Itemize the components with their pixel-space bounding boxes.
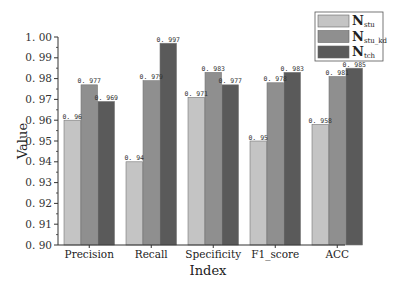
legend-swatch — [318, 15, 349, 27]
x-tick-label: ACC — [324, 248, 349, 260]
bar-n-stu-kd-acc — [329, 77, 346, 245]
y-axis-title: Value — [15, 123, 30, 160]
bar-n-stu-kd-recall — [143, 81, 160, 245]
x-tick-label: Recall — [135, 248, 169, 260]
bar-n-stu-acc — [312, 124, 329, 245]
bar-n-stu-f1-score — [250, 141, 267, 245]
value-label: 0. 985 — [343, 61, 367, 69]
value-label: 0. 94 — [124, 154, 144, 162]
value-label: 0. 978 — [264, 75, 288, 83]
value-label: 0. 981 — [326, 69, 350, 77]
y-tick-label: 0. 92 — [25, 197, 52, 209]
bar-n-stu-kd-specificity — [205, 72, 222, 245]
value-label: 0. 969 — [95, 94, 119, 102]
bar-n-stu-recall — [126, 162, 143, 245]
legend-swatch — [318, 31, 349, 43]
value-label: 0. 997 — [157, 36, 181, 44]
bar-n-stu-precision — [64, 120, 81, 245]
y-tick-label: 0. 91 — [25, 218, 52, 230]
y-axis: 0. 900. 910. 920. 930. 940. 950. 960. 97… — [25, 31, 58, 251]
x-axis: PrecisionRecallSpecificityF1_scoreACC — [58, 245, 349, 261]
y-tick-label: 0. 99 — [25, 51, 52, 63]
x-axis-title: Index — [190, 263, 228, 278]
bar-n-stu-kd-f1-score — [267, 83, 284, 245]
bar-n-tch-precision — [98, 101, 115, 245]
value-label: 0. 95 — [248, 134, 268, 142]
value-label: 0. 971 — [185, 90, 209, 98]
x-tick-label: F1_score — [251, 248, 299, 261]
legend-swatch — [318, 46, 349, 58]
value-label: 0. 983 — [202, 65, 226, 73]
value-label: 0. 977 — [78, 77, 102, 85]
bar-n-stu-specificity — [188, 97, 205, 245]
y-tick-label: 0. 93 — [25, 176, 52, 188]
bars-layer — [64, 43, 363, 245]
bar-n-tch-specificity — [222, 85, 239, 245]
value-label: 0. 958 — [309, 117, 333, 125]
value-label: 0. 979 — [140, 73, 164, 81]
bar-n-tch-f1-score — [284, 72, 301, 245]
x-tick-label: Precision — [65, 248, 115, 260]
value-label: 0. 96 — [62, 113, 82, 121]
y-tick-label: 1. 00 — [25, 31, 52, 43]
x-tick-label: Specificity — [185, 248, 241, 260]
value-label: 0. 983 — [281, 65, 305, 73]
y-tick-label: 0. 90 — [25, 239, 52, 251]
value-label: 0. 977 — [219, 77, 243, 85]
y-tick-label: 0. 97 — [25, 93, 52, 105]
legend: NstuNstu_kdNtch — [315, 12, 388, 61]
bar-n-stu-kd-precision — [81, 85, 98, 245]
bar-chart: 0. 960. 9770. 9690. 940. 9790. 9970. 971… — [0, 0, 402, 291]
y-tick-label: 0. 98 — [25, 72, 52, 84]
bar-n-tch-acc — [346, 68, 363, 245]
